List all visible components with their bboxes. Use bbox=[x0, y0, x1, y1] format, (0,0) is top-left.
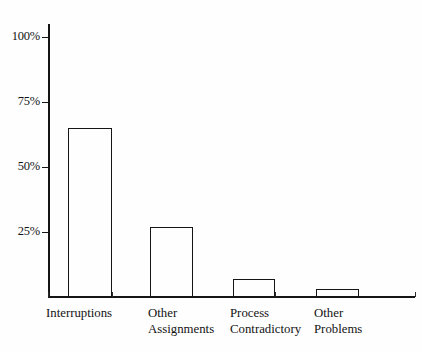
x-axis-tick bbox=[48, 292, 49, 297]
y-axis bbox=[48, 24, 50, 298]
y-axis-tick-label: 50% bbox=[0, 160, 40, 172]
plot-area: 25% 50% 75% 100% Interruptions Other Ass… bbox=[0, 0, 422, 352]
x-axis-tick bbox=[275, 292, 276, 297]
bar-other-assignments bbox=[150, 227, 193, 297]
x-axis-category-label: Other Problems bbox=[314, 305, 362, 337]
x-axis-category-label: Interruptions bbox=[46, 305, 112, 321]
y-axis-tick bbox=[42, 102, 49, 103]
bar-chart: 25% 50% 75% 100% Interruptions Other Ass… bbox=[0, 0, 422, 352]
x-axis-category-label: Process Contradictory bbox=[230, 305, 301, 337]
y-axis-tick-label: 25% bbox=[0, 225, 40, 237]
y-axis-tick-label: 75% bbox=[0, 95, 40, 107]
bar-interruptions bbox=[68, 128, 112, 297]
bar-process-contradictory bbox=[233, 279, 275, 297]
y-axis-tick-label: 100% bbox=[0, 30, 40, 42]
x-axis-category-label: Other Assignments bbox=[148, 305, 214, 337]
bar-other-problems bbox=[316, 289, 359, 297]
y-axis-tick bbox=[42, 37, 49, 38]
y-axis-tick bbox=[42, 167, 49, 168]
x-axis-tick bbox=[112, 292, 113, 297]
y-axis-tick bbox=[42, 232, 49, 233]
x-axis-tick bbox=[415, 292, 416, 297]
